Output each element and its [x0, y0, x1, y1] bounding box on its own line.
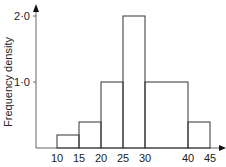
x-tick-label: 20 [95, 152, 107, 164]
histogram-bars [57, 16, 210, 148]
x-tick-label: 45 [204, 152, 216, 164]
y-tick-label: 2·0 [14, 10, 30, 22]
x-tick-label: 25 [117, 152, 129, 164]
bar-25-30 [123, 16, 145, 148]
y-axis-arrow-icon [33, 4, 39, 12]
histogram-chart: 1·0 2·0 Frequency density 10 15 20 25 30… [0, 0, 226, 167]
x-axis-arrow-icon [219, 145, 226, 151]
x-tick-label: 40 [182, 152, 194, 164]
x-tick-label: 15 [73, 152, 85, 164]
bar-40-45 [188, 122, 210, 148]
y-tick-label: 1·0 [14, 76, 30, 88]
y-axis-label: Frequency density [2, 37, 14, 127]
bar-15-20 [79, 122, 101, 148]
x-tick-label: 10 [51, 152, 63, 164]
x-tick-label: 30 [139, 152, 151, 164]
bar-10-15 [57, 135, 79, 148]
bar-30-40 [145, 82, 188, 148]
bar-20-25 [101, 82, 123, 148]
